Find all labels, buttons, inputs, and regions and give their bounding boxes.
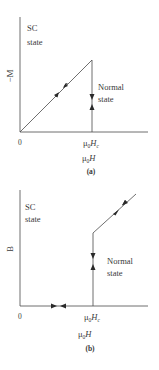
- panel-a: −M SC state Normal state 0 μ0Hc μ0H (a): [5, 17, 148, 176]
- panel-caption: (b): [85, 344, 95, 353]
- x-axis-label: μ0H: [78, 329, 92, 340]
- origin-label: 0: [18, 138, 22, 147]
- superconductor-diagram: −M SC state Normal state 0 μ0Hc μ0H (a): [0, 0, 159, 370]
- sc-state-label: state: [27, 37, 43, 47]
- arrow-down-icon: [90, 94, 95, 100]
- arrow-down-icon: [91, 253, 96, 259]
- sc-state-label: state: [25, 214, 41, 224]
- sc-state-label: SC: [25, 202, 36, 212]
- arrow-up-icon: [90, 104, 95, 110]
- sc-state-label: SC: [27, 23, 38, 33]
- normal-state-label: state: [107, 268, 123, 278]
- y-axis-label: B: [5, 246, 15, 252]
- arrow-down-icon: [63, 84, 68, 89]
- normal-state-label: Normal: [98, 82, 125, 92]
- arrow-left-icon: [60, 304, 66, 309]
- arrow-down-icon: [122, 200, 128, 206]
- critical-field-label: μ0Hc: [83, 138, 99, 149]
- panel-b: B SC state Normal state 0 μ0Hc μ0H (b): [5, 190, 148, 353]
- normal-state-label: Normal: [107, 256, 134, 266]
- arrow-up-icon: [113, 210, 119, 216]
- arrow-right-icon: [51, 304, 57, 309]
- arrow-up-icon: [91, 264, 96, 270]
- origin-label: 0: [18, 312, 22, 321]
- critical-field-label: μ0Hc: [84, 312, 100, 323]
- panel-caption: (a): [87, 167, 96, 176]
- x-axis-label: μ0H: [82, 153, 96, 164]
- normal-state-label: state: [98, 94, 114, 104]
- y-axis-label: −M: [5, 69, 15, 82]
